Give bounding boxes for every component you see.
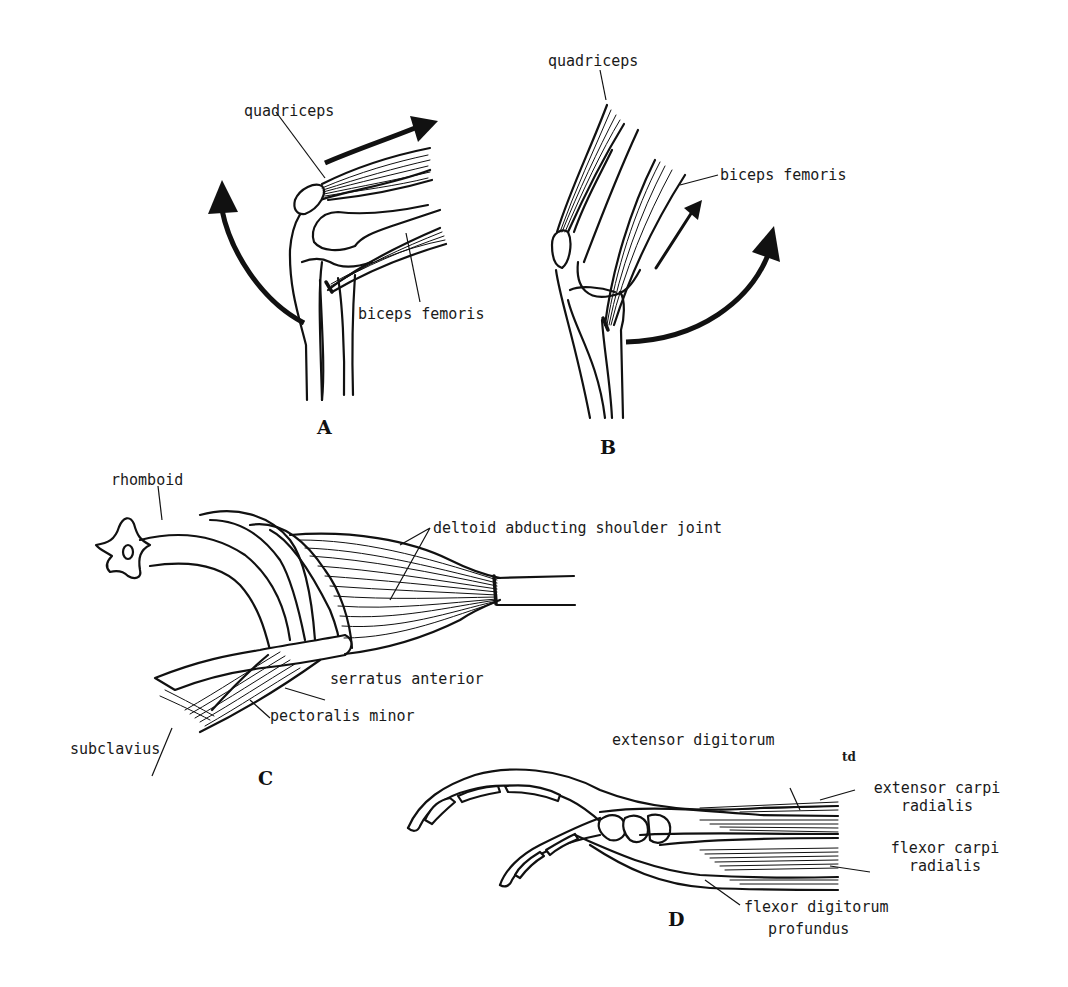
label-c-pectoralis-minor: pectoralis minor <box>270 707 415 725</box>
label-d-extensor-carpi-line1: extensor carpi <box>862 779 1012 797</box>
label-d-flexor-carpi-radialis: flexor carpi radialis <box>880 839 1010 875</box>
label-d-extensor-carpi-radialis: extensor carpi radialis <box>862 779 1012 815</box>
label-d-flexor-digitorum-line1: flexor digitorum <box>744 898 894 916</box>
label-b-quadriceps: quadriceps <box>548 52 638 70</box>
panel-b-drawing <box>552 70 780 418</box>
panel-label-d: D <box>668 908 684 930</box>
label-b-biceps-femoris: biceps femoris <box>720 166 846 184</box>
label-d-extensor-digitorum: extensor digitorum <box>612 731 775 749</box>
label-d-flexor-carpi-line1: flexor carpi <box>880 839 1010 857</box>
label-d-flexor-carpi-line2: radialis <box>880 857 1010 875</box>
label-d-extensor-carpi-line2: radialis <box>862 797 1012 815</box>
panel-d-drawing <box>408 770 870 905</box>
label-a-biceps-femoris: biceps femoris <box>358 305 484 323</box>
panel-label-a: A <box>317 416 332 438</box>
panel-label-b: B <box>600 436 616 458</box>
panel-label-c: C <box>258 767 273 789</box>
label-d-flexor-digitorum-profundus: flexor digitorum profundus <box>744 898 894 938</box>
label-a-quadriceps: quadriceps <box>244 102 334 120</box>
label-d-td: td <box>842 748 856 766</box>
label-c-rhomboid: rhomboid <box>111 471 183 489</box>
panel-a-drawing <box>208 112 446 400</box>
label-d-flexor-digitorum-line2: profundus <box>744 920 894 938</box>
label-c-subclavius: subclavius <box>70 740 160 758</box>
anatomy-figure: quadriceps biceps femoris A quadriceps b… <box>0 0 1068 987</box>
label-c-serratus-anterior: serratus anterior <box>330 670 484 688</box>
label-c-deltoid: deltoid abducting shoulder joint <box>433 519 722 537</box>
